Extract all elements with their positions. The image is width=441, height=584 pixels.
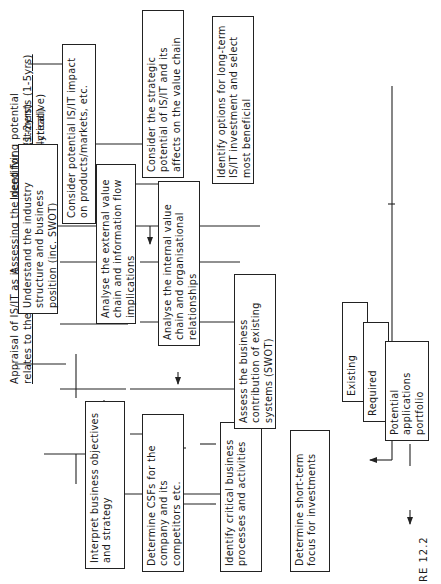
box-text: Determine short-term focus for investmen… — [294, 453, 317, 566]
box-text: Analyse the internal value chain and org… — [162, 204, 198, 340]
box-internal-value-chain: Analyse the internal value chain and org… — [158, 181, 200, 346]
box-identify-options: Identify options for long-term IS/IT inv… — [212, 16, 254, 184]
diagram-stage: Assessing the need for immediate investm… — [0, 0, 441, 584]
box-potential-portfolio: Potential applications portfolio — [385, 341, 429, 441]
box-external-value-chain: Analyse the external value chain and inf… — [96, 164, 136, 324]
box-text: Understand the industry structure and bu… — [22, 182, 58, 308]
box-text: Existing — [346, 355, 357, 396]
box-text: Identify critical business processes and… — [224, 439, 247, 566]
box-text: Interpret business objectives and strate… — [89, 413, 112, 563]
box-text: Determine CSFs for the company and its c… — [146, 445, 182, 566]
box-text: Analyse the external value chain and inf… — [100, 179, 136, 318]
box-understand-industry: Understand the industry structure and bu… — [18, 144, 58, 314]
box-text: Assess the business contribution of exis… — [238, 302, 274, 423]
box-text: Consider potential IS/IT impact on produ… — [66, 58, 89, 218]
box-text: Required — [367, 370, 378, 416]
box-text: Identify options for long-term IS/IT inv… — [216, 25, 252, 178]
figure-label: RE 12.2 — [418, 536, 429, 582]
box-text: Potential applications portfolio — [389, 372, 425, 435]
box-text: Consider the strategic potential of IS/I… — [146, 37, 182, 172]
box-interpret-objectives: Interpret business objectives and strate… — [85, 401, 125, 569]
box-consider-impact: Consider potential IS/IT impact on produ… — [62, 44, 96, 224]
box-critical-processes: Identify critical business processes and… — [220, 422, 262, 572]
box-determine-csfs: Determine CSFs for the company and its c… — [142, 414, 184, 572]
box-assess-contribution: Assess the business contribution of exis… — [234, 274, 276, 429]
box-consider-strategic: Consider the strategic potential of IS/I… — [142, 10, 184, 178]
box-short-term-focus: Determine short-term focus for investmen… — [290, 430, 330, 572]
